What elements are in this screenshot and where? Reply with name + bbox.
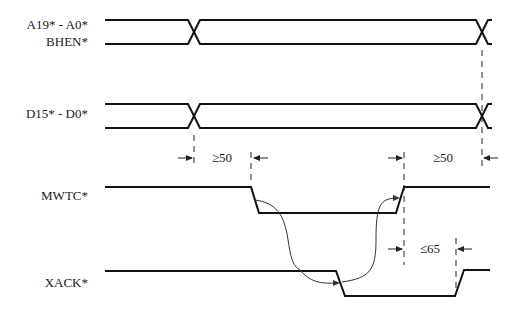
label-data: D15* - D0* <box>26 106 88 121</box>
xack-dimension: ≤65 <box>388 241 472 256</box>
xack-time-label: ≤65 <box>420 241 440 256</box>
xack-waveform <box>105 270 490 296</box>
address-bus-waveform <box>105 20 492 44</box>
mwtc-waveform <box>105 187 490 213</box>
timing-diagram: A19* - A0* BHEN* D15* - D0* MWTC* XACK* … <box>0 0 515 312</box>
setup-dimension: ≥50 <box>178 150 268 165</box>
label-mwtc: MWTC* <box>41 188 88 203</box>
label-xack: XACK* <box>45 275 88 290</box>
hold-time-label: ≥50 <box>433 150 453 165</box>
label-bhen: BHEN* <box>46 34 88 49</box>
data-bus-waveform <box>105 104 492 128</box>
label-address: A19* - A0* <box>27 17 88 32</box>
setup-time-label: ≥50 <box>212 150 232 165</box>
causality-arrows <box>255 195 400 286</box>
